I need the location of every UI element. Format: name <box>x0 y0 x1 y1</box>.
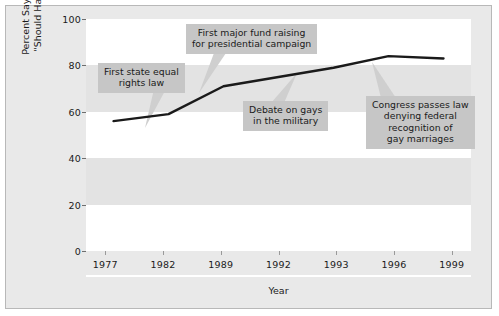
callout-pointer-first-state-equal-rights-law <box>145 89 166 128</box>
callout-line-3: recognition of <box>372 122 469 133</box>
callout-line-4: gay marriages <box>372 133 469 144</box>
callout-pointer-congress-passes-law <box>372 62 396 98</box>
callout-line-2: rights law <box>104 77 179 88</box>
callout-debate-on-gays-in-the-military: Debate on gays in the military <box>243 101 328 131</box>
callout-line-1: Congress passes law <box>372 99 469 110</box>
callout-line-2: in the military <box>249 115 322 126</box>
callout-line-1: Debate on gays <box>249 104 322 115</box>
callout-line-1: First state equal <box>104 66 179 77</box>
figure-panel: 100 80 60 40 20 0 1977 1982 1989 1992 19… <box>5 5 492 309</box>
callout-first-major-fund-raising: First major fund raising for presidentia… <box>186 24 317 54</box>
callout-congress-passes-law: Congress passes law denying federal reco… <box>366 96 475 149</box>
callout-line-1: First major fund raising <box>192 27 311 38</box>
callout-first-state-equal-rights-law: First state equal rights law <box>98 63 185 93</box>
callout-line-2: denying federal <box>372 110 469 121</box>
callout-line-2: for presidential campaign <box>192 38 311 49</box>
